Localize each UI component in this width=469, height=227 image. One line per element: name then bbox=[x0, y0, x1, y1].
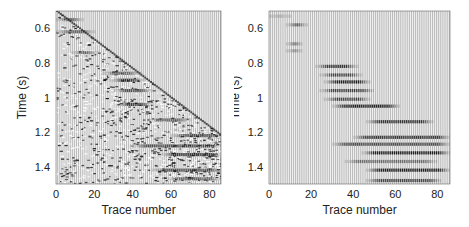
x-tick-label: 40 bbox=[127, 188, 139, 200]
y-tick-label: 1.4 bbox=[248, 161, 263, 173]
y-tick-label: 0.6 bbox=[248, 22, 263, 34]
x-tick-label: 60 bbox=[165, 188, 177, 200]
trace-area bbox=[56, 10, 223, 185]
x-axis-label: Trace number bbox=[101, 203, 175, 217]
trace-area bbox=[269, 11, 452, 184]
right-gather-chart: 0.60.811.21.4020406080Trace numberTime (… bbox=[234, 0, 469, 227]
x-tick-label: 80 bbox=[203, 188, 215, 200]
y-tick-label: 1.2 bbox=[248, 126, 263, 138]
y-tick-label: 0.8 bbox=[35, 57, 50, 69]
y-tick-label: 0.6 bbox=[35, 22, 50, 34]
x-tick-label: 80 bbox=[431, 188, 443, 200]
left-gather-chart: 0.60.811.21.4020406080Trace numberTime (… bbox=[0, 0, 234, 227]
x-axis-label: Trace number bbox=[322, 203, 396, 217]
y-tick-label: 1 bbox=[44, 92, 50, 104]
y-axis-label: Time (s) bbox=[15, 76, 29, 120]
y-axis-label: Time (s) bbox=[234, 76, 242, 120]
y-tick-label: 1 bbox=[257, 92, 263, 104]
x-tick-label: 0 bbox=[266, 188, 272, 200]
left-gather-plot: 0.60.811.21.4020406080Trace numberTime (… bbox=[0, 0, 234, 227]
y-tick-label: 1.2 bbox=[35, 126, 50, 138]
x-tick-label: 20 bbox=[88, 188, 100, 200]
x-tick-label: 20 bbox=[305, 188, 317, 200]
x-tick-label: 40 bbox=[347, 188, 359, 200]
y-tick-label: 0.8 bbox=[248, 57, 263, 69]
x-tick-label: 0 bbox=[53, 188, 59, 200]
x-tick-label: 60 bbox=[389, 188, 401, 200]
y-tick-label: 1.4 bbox=[35, 161, 50, 173]
right-gather-plot: 0.60.811.21.4020406080Trace numberTime (… bbox=[234, 0, 469, 227]
